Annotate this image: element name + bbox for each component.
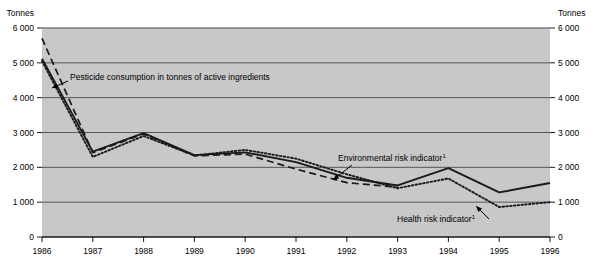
pesticide-annotation: Pesticide consumption in tonnes of activ… — [70, 72, 270, 82]
x-tick-label-1986: 1986 — [33, 246, 52, 256]
y-tick-label-left-3000: 3 000 — [13, 128, 35, 138]
x-tick-label-1990: 1990 — [236, 246, 255, 256]
x-tick-label-1996: 1996 — [541, 246, 560, 256]
x-tick-label-1987: 1987 — [83, 246, 102, 256]
y-tick-label-right-3000: 3 000 — [558, 128, 580, 138]
x-tick-label-1991: 1991 — [287, 246, 306, 256]
x-tick-label-1989: 1989 — [185, 246, 204, 256]
chart-container: 001 0001 0002 0002 0003 0003 0004 0004 0… — [0, 0, 595, 264]
y-tick-label-right-1000: 1 000 — [558, 197, 580, 207]
x-tick-label-1995: 1995 — [490, 246, 509, 256]
y-tick-label-right-5000: 5 000 — [558, 58, 580, 68]
y-tick-label-left-0: 0 — [29, 232, 34, 242]
y-tick-label-right-6000: 6 000 — [558, 23, 580, 33]
y-tick-label-left-1000: 1 000 — [13, 197, 35, 207]
y-tick-label-right-0: 0 — [558, 232, 563, 242]
x-tick-label-1994: 1994 — [439, 246, 458, 256]
y-tick-label-right-4000: 4 000 — [558, 93, 580, 103]
health-annotation: Health risk indicator1 — [397, 214, 476, 224]
x-tick-label-1992: 1992 — [337, 246, 356, 256]
y-tick-label-right-2000: 2 000 — [558, 162, 580, 172]
y-tick-label-left-2000: 2 000 — [13, 162, 35, 172]
environmental-annotation: Environmental risk indicator1 — [338, 153, 446, 163]
y-tick-label-left-6000: 6 000 — [13, 23, 35, 33]
pesticide-risk-line-chart: 001 0001 0002 0002 0003 0003 0004 0004 0… — [0, 0, 595, 264]
x-tick-label-1993: 1993 — [388, 246, 407, 256]
y-tick-label-left-4000: 4 000 — [13, 93, 35, 103]
y-tick-label-left-5000: 5 000 — [13, 58, 35, 68]
y-axis-unit-right: Tonnes — [558, 8, 585, 18]
x-tick-label-1988: 1988 — [134, 246, 153, 256]
y-axis-unit-left: Tonnes — [7, 8, 34, 18]
